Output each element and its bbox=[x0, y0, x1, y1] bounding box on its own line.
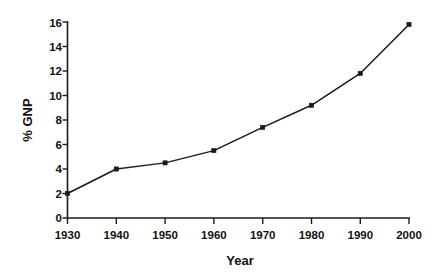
data-point bbox=[212, 149, 216, 153]
chart-page: 0 2 4 6 8 10 12 14 16 1930 1940 1 bbox=[0, 0, 441, 280]
data-point bbox=[114, 167, 118, 171]
y-axis-title: % GNP bbox=[20, 98, 35, 142]
series-group bbox=[65, 22, 411, 195]
y-tick-label-12: 12 bbox=[49, 65, 62, 77]
data-point bbox=[65, 191, 69, 195]
x-tick-label-1930: 1930 bbox=[55, 229, 81, 241]
series-markers-gnp bbox=[65, 22, 411, 195]
y-tick-label-4: 4 bbox=[56, 163, 63, 175]
y-tick-label-6: 6 bbox=[56, 139, 62, 151]
y-tick-label-16: 16 bbox=[49, 17, 62, 29]
x-axis-title: Year bbox=[226, 253, 253, 268]
data-point bbox=[358, 71, 362, 75]
data-point bbox=[309, 103, 313, 107]
y-tick-label-8: 8 bbox=[56, 114, 63, 126]
y-tick-label-10: 10 bbox=[49, 90, 62, 102]
x-tick-label-1940: 1940 bbox=[104, 229, 130, 241]
y-tick-label-2: 2 bbox=[56, 188, 62, 200]
x-tick-label-1970: 1970 bbox=[250, 229, 276, 241]
series-line-gnp bbox=[68, 24, 410, 193]
x-tick-label-2000: 2000 bbox=[396, 229, 422, 241]
line-chart: 0 2 4 6 8 10 12 14 16 1930 1940 1 bbox=[0, 0, 441, 280]
data-point bbox=[163, 161, 167, 165]
x-tick-label-1950: 1950 bbox=[152, 229, 178, 241]
data-point bbox=[407, 22, 411, 26]
x-tick-label-1960: 1960 bbox=[201, 229, 227, 241]
y-tick-label-0: 0 bbox=[56, 212, 62, 224]
x-tick-label-1980: 1980 bbox=[299, 229, 325, 241]
data-point bbox=[261, 125, 265, 129]
y-tick-label-14: 14 bbox=[49, 41, 62, 53]
x-tick-label-1990: 1990 bbox=[348, 229, 374, 241]
